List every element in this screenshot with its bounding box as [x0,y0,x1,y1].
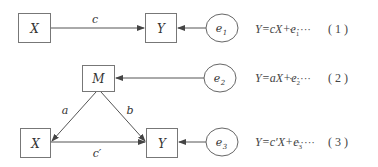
node-e2: e 2 [204,64,236,92]
node-y-top: Y [146,14,177,43]
node-e3: e 3 [206,128,238,156]
equation-2: Y=aX+e2 ······ ( 2 ) [255,71,348,87]
equation-1-dots: ······ [289,23,311,35]
node-e1-subscript: 1 [223,29,227,37]
diagram-mediation: M e 2 Y=aX+e2 ······ ( 2 ) a b X Y c′ [21,64,349,160]
node-e2-label: e [214,72,221,85]
node-y-label: Y [158,137,167,151]
node-x-top: X [19,14,51,43]
node-x-label: X [29,22,39,36]
node-y-label: Y [157,22,166,36]
mediation-diagram: X Y c e 1 Y=cX+e1 ······ ( 1 ) M e [0,0,378,167]
node-x-bottom: X [21,129,51,158]
diagram-total-effect: X Y c e 1 Y=cX+e1 ······ ( 1 ) [19,13,349,43]
edge-c-label: c [92,13,98,26]
equation-1: Y=cX+e1 ······ ( 1 ) [255,22,348,38]
node-e2-subscript: 2 [220,79,226,87]
node-x-label: X [30,137,40,151]
node-e1-label: e [216,22,223,35]
node-m-label: M [91,72,105,86]
node-m: M [83,66,115,92]
edge-a-label: a [62,104,69,117]
equation-1-number: ( 1 ) [328,22,348,36]
edge-m-to-y-b [101,92,145,141]
edge-c-prime-label: c′ [93,147,102,160]
equation-3-number: ( 3 ) [328,135,348,149]
equation-3: Y=c′X+e3 ······ ( 3 ) [255,135,348,151]
node-e1: e 1 [206,14,238,42]
node-y-bottom: Y [147,129,178,158]
equation-2-number: ( 2 ) [328,71,348,85]
equation-2-dots: ······ [289,72,311,84]
edge-m-to-x-a [52,92,96,141]
edge-b-label: b [126,104,133,117]
equation-3-dots: ······ [293,136,315,148]
node-e3-label: e [216,136,223,149]
node-e3-subscript: 3 [223,143,228,151]
